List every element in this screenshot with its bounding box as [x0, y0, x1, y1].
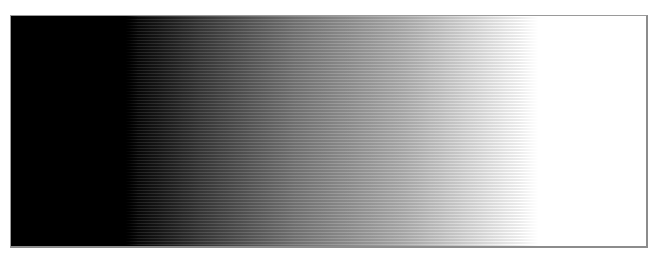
black-to-white-gradient [11, 16, 646, 246]
gradient-panel [10, 15, 648, 248]
